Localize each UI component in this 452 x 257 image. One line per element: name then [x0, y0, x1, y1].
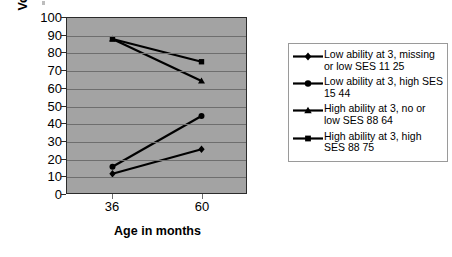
data-point-36-15: [109, 164, 115, 170]
y-axis-tick-label-20: 20: [26, 152, 62, 165]
series-line: [112, 149, 201, 174]
y-axis-tickmark-100: [61, 17, 66, 18]
y-axis-tickmark-40: [61, 123, 66, 124]
y-axis-tickmark-80: [61, 52, 66, 53]
gridline-40: [67, 124, 246, 125]
x-axis-tick-label-60: 60: [172, 200, 232, 213]
legend: Low ability at 3, missing or low SES 11 …: [288, 43, 448, 162]
series-line: [112, 39, 201, 62]
legend-label-0: Low ability at 3, missing or low SES 11 …: [324, 49, 444, 72]
y-axis-tick-label-60: 60: [26, 81, 62, 94]
legend-marker-triangle-icon: [292, 104, 324, 117]
legend-marker-square-icon: [292, 132, 324, 145]
gridline-80: [67, 53, 246, 54]
scan-artifact: [42, 1, 45, 5]
y-axis-tick-label-10: 10: [26, 170, 62, 183]
y-axis-tickmark-60: [61, 88, 66, 89]
gridline-90: [67, 36, 246, 37]
y-axis-tick-label-80: 80: [26, 46, 62, 59]
legend-marker-circle-icon: [292, 77, 324, 90]
gridline-50: [67, 107, 246, 108]
legend-label-2: High ability at 3, no or low SES 88 64: [324, 103, 444, 126]
x-axis-tick-label-36: 36: [82, 200, 142, 213]
y-axis-tick-labels: 1009080706050403020100: [26, 12, 62, 196]
y-axis-tickmark-0: [61, 194, 66, 195]
series-layer: [67, 18, 246, 193]
y-axis-tick-label-40: 40: [26, 117, 62, 130]
vocab-percentile-line-chart: Vocab test percentile 100908070605040302…: [0, 0, 452, 257]
y-axis-tickmark-90: [61, 35, 66, 36]
y-axis-tick-label-0: 0: [26, 188, 62, 201]
gridline-70: [67, 71, 246, 72]
legend-entry-1: Low ability at 3, high SES 15 44: [292, 76, 444, 99]
x-axis-tickmark-60: [202, 194, 203, 199]
gridline-20: [67, 160, 246, 161]
gridline-10: [67, 177, 246, 178]
y-axis-tickmark-10: [61, 176, 66, 177]
series-line: [112, 39, 201, 81]
gridline-30: [67, 142, 246, 143]
x-axis-title: Age in months: [50, 224, 265, 238]
legend-marker-diamond-icon: [292, 50, 324, 63]
x-axis-tickmark-36: [112, 194, 113, 199]
y-axis-tickmark-70: [61, 70, 66, 71]
y-axis-tick-label-50: 50: [26, 99, 62, 112]
y-axis-tick-label-90: 90: [26, 28, 62, 41]
y-axis-tick-label-30: 30: [26, 134, 62, 147]
data-point-60-44: [198, 113, 204, 119]
y-axis-tickmark-30: [61, 141, 66, 142]
y-axis-tickmark-20: [61, 159, 66, 160]
legend-entry-3: High ability at 3, high SES 88 75: [292, 131, 444, 154]
legend-label-3: High ability at 3, high SES 88 75: [324, 131, 444, 154]
data-point-60-75: [199, 59, 204, 64]
gridline-60: [67, 89, 246, 90]
legend-entry-0: Low ability at 3, missing or low SES 11 …: [292, 49, 444, 72]
y-axis-tick-label-100: 100: [26, 11, 62, 24]
plot-area: [66, 17, 247, 194]
legend-entry-2: High ability at 3, no or low SES 88 64: [292, 103, 444, 126]
y-axis-tick-label-70: 70: [26, 64, 62, 77]
data-point-36-88: [110, 36, 115, 41]
data-point-60-25: [198, 145, 204, 153]
legend-label-1: Low ability at 3, high SES 15 44: [324, 76, 444, 99]
y-axis-tickmark-50: [61, 106, 66, 107]
